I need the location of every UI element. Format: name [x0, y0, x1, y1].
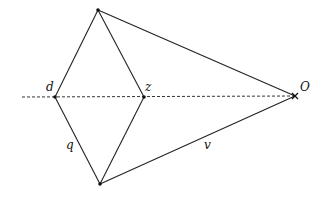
edge-z-bottom: [100, 97, 144, 184]
vertex-d-dot: [53, 95, 57, 99]
label-v: v: [204, 138, 211, 152]
label-O: O: [300, 80, 310, 94]
edge-top-z: [98, 10, 144, 97]
edge-bottom-O: [100, 96, 295, 184]
vertex-z-dot: [142, 95, 146, 99]
label-d: d: [46, 80, 54, 94]
vertex-bottom-dot: [98, 182, 102, 186]
diagram-canvas: d z O q v: [0, 0, 325, 205]
edge-top-O: [98, 10, 295, 96]
label-q: q: [66, 138, 74, 152]
dashed-axis-line: [22, 96, 295, 97]
label-z: z: [144, 80, 152, 94]
edge-d-bottom: [55, 97, 100, 184]
edge-top-d: [55, 10, 98, 97]
vertex-top-dot: [96, 8, 100, 12]
